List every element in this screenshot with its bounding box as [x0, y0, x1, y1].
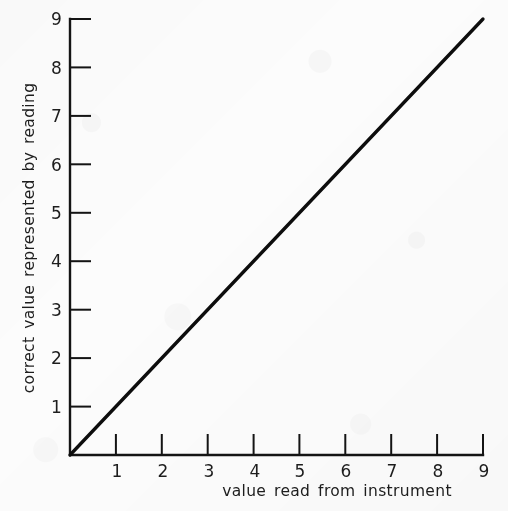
data-series-group [70, 19, 483, 455]
x-tick-label-6: 6 [340, 461, 351, 481]
y-axis-tick-labels: 1 2 3 4 5 6 7 8 9 [51, 9, 62, 417]
x-axis-ticks [116, 434, 483, 455]
y-tick-label-1: 1 [51, 397, 62, 417]
x-axis-tick-labels: 1 2 3 4 5 6 7 8 9 [111, 461, 489, 481]
chart-figure: 1 2 3 4 5 6 7 8 9 1 2 3 4 5 6 7 8 9 valu… [0, 0, 508, 511]
x-tick-label-1: 1 [111, 461, 122, 481]
x-tick-label-2: 2 [157, 461, 168, 481]
x-tick-label-3: 3 [203, 461, 214, 481]
x-axis-title: value read from instrument [222, 482, 452, 500]
y-tick-label-6: 6 [51, 155, 62, 175]
y-tick-label-7: 7 [51, 106, 62, 126]
series-line-ideal-calibration [70, 19, 483, 455]
y-axis-ticks [70, 19, 91, 407]
y-tick-label-8: 8 [51, 58, 62, 78]
x-tick-label-5: 5 [294, 461, 305, 481]
y-axis-title: correct value represented by reading [20, 83, 38, 394]
x-tick-label-8: 8 [432, 461, 443, 481]
plot-canvas: 1 2 3 4 5 6 7 8 9 1 2 3 4 5 6 7 8 9 valu… [0, 0, 508, 511]
x-tick-label-7: 7 [386, 461, 397, 481]
y-tick-label-2: 2 [51, 348, 62, 368]
x-tick-label-4: 4 [249, 461, 260, 481]
y-tick-label-3: 3 [51, 300, 62, 320]
x-tick-label-9: 9 [478, 461, 489, 481]
y-tick-label-9: 9 [51, 9, 62, 29]
y-tick-label-5: 5 [51, 203, 62, 223]
y-tick-label-4: 4 [51, 251, 62, 271]
